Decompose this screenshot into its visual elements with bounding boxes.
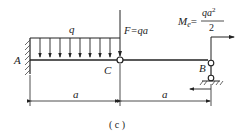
beam-diagram: A q F=qa C B [0, 0, 248, 138]
moment-eq: = [191, 15, 197, 27]
moment-numerator: qa2 [202, 6, 216, 18]
label-b: B [199, 62, 206, 74]
label-moment: Me= qa2 2 [177, 6, 224, 33]
svg-text:Me=: Me= [177, 15, 197, 29]
moment-me-symbol [211, 37, 234, 60]
dim-label-left: a [73, 88, 79, 100]
dimension-lines [30, 64, 211, 106]
hinge-c [117, 57, 123, 63]
distributed-load [30, 38, 120, 57]
dim-label-right: a [162, 88, 168, 100]
fixed-support-a [25, 38, 30, 75]
figure-caption: ( c ) [109, 119, 125, 131]
label-force: F=qa [123, 25, 148, 36]
label-a: A [13, 54, 21, 66]
label-q: q [69, 23, 75, 35]
label-c: C [104, 64, 112, 76]
moment-denominator: 2 [209, 22, 214, 33]
